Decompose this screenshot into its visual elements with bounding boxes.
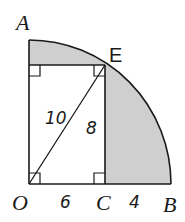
right-angle-marker-top-left xyxy=(29,65,40,76)
label-a: A xyxy=(14,10,30,35)
measure-ce: 8 xyxy=(86,118,97,138)
label-b: B xyxy=(163,192,176,217)
quarter-circle-diagram: A E O C B 10 8 6 4 xyxy=(0,0,185,222)
label-c: C xyxy=(96,190,111,215)
measure-oc: 6 xyxy=(60,192,71,212)
right-angle-marker-c xyxy=(94,173,105,184)
measure-oe: 10 xyxy=(45,108,67,128)
label-o: O xyxy=(12,190,28,215)
measure-cb: 4 xyxy=(129,192,140,212)
label-e: E xyxy=(109,44,122,66)
